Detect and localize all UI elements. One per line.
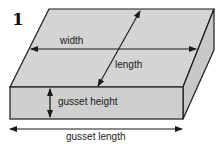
width-label: width [60,36,83,46]
length-label: length [115,60,142,70]
top-face [10,9,214,87]
gusset-length-label: gusset length [66,132,126,142]
figure-number: 1 [12,11,24,28]
gusset-box-diagram: 1 width length gusset height gusset leng… [0,0,217,144]
gusset-height-label: gusset height [58,97,118,107]
box-drawing [0,0,217,144]
